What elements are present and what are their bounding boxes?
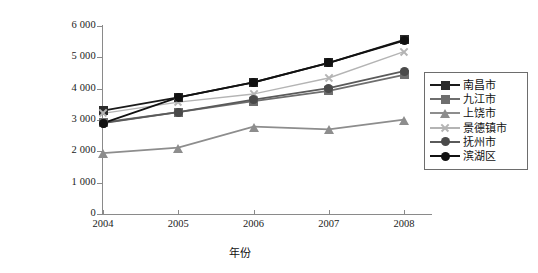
legend-marker (441, 81, 450, 90)
data-point-marker (399, 116, 409, 125)
legend-swatch (430, 107, 460, 119)
legend-item[interactable]: 滨湖区 (430, 149, 523, 163)
legend-item[interactable]: 上饶市 (430, 106, 523, 120)
data-point-marker (174, 108, 183, 117)
legend-marker (440, 109, 450, 118)
legend-swatch (430, 150, 460, 162)
data-point-marker (400, 67, 409, 76)
legend-item[interactable]: 九江市 (430, 92, 523, 106)
legend-swatch (430, 136, 460, 148)
legend-marker (441, 152, 450, 161)
legend-label: 南昌市 (463, 79, 496, 91)
legend-item[interactable]: 景德镇市 (430, 121, 523, 135)
legend-swatch (430, 122, 460, 134)
data-point-marker (249, 123, 259, 132)
legend-swatch (430, 93, 460, 105)
data-point-marker (324, 84, 333, 93)
data-point-marker (324, 73, 334, 83)
data-point-marker (98, 108, 108, 118)
legend-label: 九江市 (463, 93, 496, 105)
legend-item[interactable]: 抚州市 (430, 135, 523, 149)
data-point-marker (400, 36, 409, 45)
data-point-marker (174, 93, 183, 102)
legend-marker (440, 123, 450, 133)
data-point-marker (98, 149, 108, 158)
legend-item[interactable]: 南昌市 (430, 78, 523, 92)
legend-marker (441, 137, 450, 146)
legend-label: 抚州市 (463, 136, 496, 148)
chart-legend: 南昌市九江市上饶市景德镇市抚州市滨湖区 (424, 72, 528, 170)
legend-label: 上饶市 (463, 107, 496, 119)
data-point-marker (249, 78, 258, 87)
data-point-marker (324, 125, 334, 134)
legend-swatch (430, 79, 460, 91)
data-point-marker (173, 144, 183, 153)
legend-label: 景德镇市 (463, 122, 507, 134)
data-point-marker (399, 47, 409, 57)
data-point-marker (99, 119, 108, 128)
legend-marker (441, 95, 450, 104)
legend-label: 滨湖区 (463, 150, 496, 162)
chart-figure: 农村居民人均纯收入/元 6 0005 0004 0003 0002 0001 0… (0, 0, 538, 273)
